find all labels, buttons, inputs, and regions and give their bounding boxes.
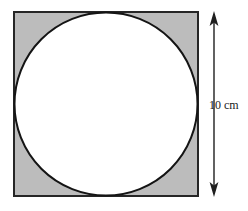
inscribed-circle [15, 13, 198, 196]
geometry-figure: 10 cm [0, 0, 248, 211]
dimension-label: 10 cm [209, 98, 239, 112]
